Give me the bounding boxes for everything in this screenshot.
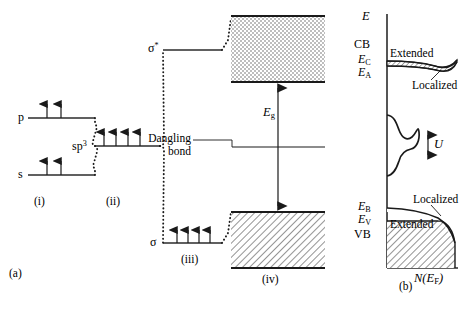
sigma-star-label: σ* [148,42,159,54]
valence-band-block [231,212,325,268]
s-level-electrons [47,161,61,175]
vb-label: VB [354,228,371,240]
panel-a-label: (a) [9,268,22,280]
stage-label-iv: (iv) [262,274,279,286]
cb-band-tail [387,60,457,71]
s-level-label: s [18,168,23,180]
ev-label: EV [358,213,371,227]
panel-b-label: (b) [399,281,412,293]
dangling-bond-label-line1: Dangling [148,133,191,145]
sp3-level-label: sp3 [72,140,87,152]
correlation-energy-label: U [434,138,443,151]
localized-top-label: Localized [412,80,457,92]
stage-label-iii: (iii) [181,254,198,266]
cb-label: CB [354,38,370,50]
sigma-level-group [163,230,222,243]
dangling-bond-label-line2: bond [168,146,191,158]
connector-ii-iii [160,50,164,243]
ea-label: EA [358,66,371,80]
dos-axis-label: N(EF) [414,272,443,285]
stage-label-ii: (ii) [106,196,120,208]
p-level-group [28,104,95,118]
sp3-level-electrons [104,132,140,146]
p-level-label: p [18,111,24,123]
localized-bottom-label: Localized [413,194,458,206]
band-gap-label: Eg [263,106,275,119]
sigma-label: σ [150,236,156,248]
figure-root: p s sp3 σ* σ Dangling bond Eg (i) (ii) (… [0,0,471,311]
extended-bottom-label: Extended [390,219,433,231]
conduction-band-block [231,16,325,82]
sigma-level-electrons [177,230,210,243]
vb-localized-leader [431,205,441,216]
p-level-electrons [47,104,61,118]
stage-label-i: (i) [34,196,45,208]
extended-top-label: Extended [390,48,433,60]
s-level-group [28,161,95,175]
gap-states-curve [387,115,419,176]
connector-iii-iv [222,18,231,243]
energy-axis-label: E [362,10,370,23]
dangling-bond-line [193,140,325,147]
